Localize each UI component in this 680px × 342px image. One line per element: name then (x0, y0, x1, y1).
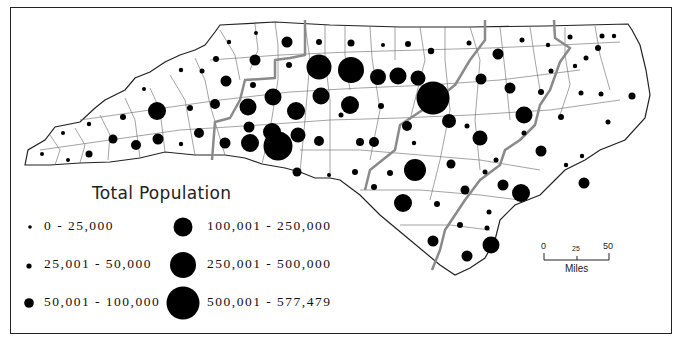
scale-tick-50: 50 (603, 241, 613, 251)
legend-label-class-6: 500,001 - 577,479 (207, 294, 332, 310)
legend-label-class-1: 0 - 25,000 (44, 218, 114, 234)
legend-label-class-2: 25,001 - 50,000 (44, 256, 152, 272)
legend-symbol-class-6 (167, 287, 200, 320)
legend-symbol-class-4 (174, 218, 193, 237)
legend-label-class-5: 250,001 - 500,000 (207, 256, 332, 272)
scale-bar (544, 253, 609, 260)
legend-symbol-class-1 (28, 225, 32, 229)
state-outline (25, 22, 650, 275)
scale-tick-0: 0 (541, 241, 546, 251)
legend-symbol-class-2 (26, 263, 31, 268)
legend-label-class-4: 100,001 - 250,000 (207, 218, 332, 234)
nc-population-map (0, 0, 680, 342)
legend-title: Total Population (92, 183, 231, 203)
scale-unit-label: Miles (565, 263, 588, 274)
legend-symbol-class-3 (24, 298, 34, 308)
legend-label-class-3: 50,001 - 100,000 (44, 294, 160, 310)
legend-symbol-class-5 (170, 252, 196, 278)
scale-tick-25: 25 (572, 245, 580, 252)
